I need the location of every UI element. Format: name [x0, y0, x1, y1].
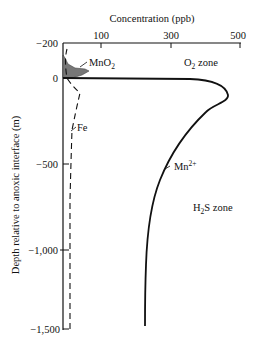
- fe-curve: [66, 49, 81, 330]
- mn2-label: Mn2+: [174, 159, 197, 172]
- o2-zone-label: O2 zone: [184, 57, 218, 71]
- depth-profile-chart: Concentration (ppb) 100 300 500 −200 0 −…: [0, 0, 260, 350]
- y-tick-label-m1500: −1,500: [30, 324, 60, 335]
- x-axis-title: Concentration (ppb): [110, 13, 195, 25]
- mno2-label: MnO2: [89, 57, 115, 71]
- h2s-zone-label: H2S zone: [193, 202, 233, 216]
- x-tick-label-300: 300: [163, 30, 179, 41]
- fe-label: Fe: [77, 122, 88, 133]
- mno2-area: [63, 55, 89, 78]
- y-tick-label-m200: −200: [36, 38, 58, 49]
- mno2-leader: [80, 62, 87, 67]
- y-tick-label-m1000: −1,000: [28, 245, 58, 256]
- y-axis-title: Depth relative to anoxic interface (m): [10, 115, 22, 274]
- fe-leader: [71, 127, 76, 131]
- y-tick-label-0: 0: [53, 73, 58, 84]
- x-tick-label-500: 500: [230, 30, 246, 41]
- x-tick-label-100: 100: [93, 30, 109, 41]
- mn2-curve: [63, 78, 228, 326]
- y-tick-label-m500: −500: [36, 159, 58, 170]
